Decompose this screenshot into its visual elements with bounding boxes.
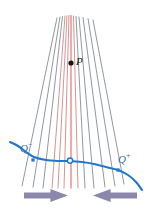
q-plus-label: Q+ xyxy=(118,152,130,165)
curve-marker-q-minus xyxy=(31,158,34,161)
curve-marker-q-plus xyxy=(116,168,119,171)
focal-point-marker xyxy=(68,60,73,65)
q-plus-superscript: + xyxy=(126,151,130,160)
q-minus-base: Q xyxy=(20,142,28,154)
caustic-diagram xyxy=(0,0,148,212)
q-minus-label: Q− xyxy=(20,141,32,154)
q-minus-superscript: − xyxy=(28,140,32,149)
tangency-point-marker xyxy=(67,158,72,163)
figure-canvas: P Q− Q+ xyxy=(0,0,148,212)
q-plus-base: Q xyxy=(118,153,126,165)
point-p-label: P xyxy=(76,56,83,67)
